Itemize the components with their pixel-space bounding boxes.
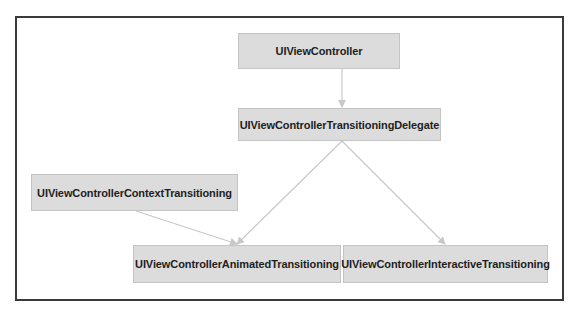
node-label: UIViewControllerAnimatedTransitioning (135, 258, 339, 270)
node-uiviewcontroller: UIViewController (238, 33, 400, 69)
node-context-transitioning: UIViewControllerContextTransitioning (31, 174, 238, 211)
node-interactive-transitioning: UIViewControllerInteractiveTransitioning (343, 245, 548, 283)
node-label: UIViewController (276, 45, 363, 57)
node-animated-transitioning: UIViewControllerAnimatedTransitioning (133, 245, 341, 283)
node-transitioning-delegate: UIViewControllerTransitioningDelegate (238, 108, 441, 141)
node-label: UIViewControllerContextTransitioning (37, 187, 232, 199)
node-label: UIViewControllerTransitioningDelegate (240, 119, 440, 131)
node-label: UIViewControllerInteractiveTransitioning (341, 258, 550, 270)
